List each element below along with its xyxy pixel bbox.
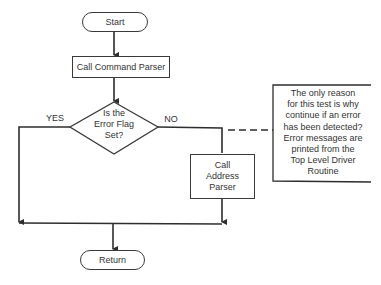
address-line-2: Address [206, 171, 239, 182]
note-line-5: Error messages are [274, 133, 372, 144]
return-terminal: Return [80, 250, 145, 270]
no-branch-line [158, 127, 222, 153]
note-line-1: The only reason [274, 88, 372, 99]
start-terminal: Start [82, 12, 148, 32]
merge-line [19, 223, 222, 224]
no-label: NO [160, 114, 182, 125]
note-line-6: printed from the [274, 144, 372, 155]
annotation-note: The only reason for this test is why con… [274, 88, 372, 178]
decision-line-2: Error Flag [84, 119, 144, 130]
decision-text: Is the Error Flag Set? [84, 108, 144, 141]
call-command-parser-box: Call Command Parser [72, 56, 170, 78]
note-line-2: for this test is why [274, 99, 372, 110]
note-line-4: has been detected? [274, 122, 372, 133]
yes-label: YES [40, 113, 70, 124]
decision-line-1: Is the [84, 108, 144, 119]
return-label: Return [99, 255, 126, 266]
call-address-parser-box: Call Address Parser [190, 154, 255, 199]
yes-branch-line [19, 127, 70, 222]
call-command-parser-label: Call Command Parser [77, 62, 166, 73]
note-line-7: Top Level Driver [274, 155, 372, 166]
address-line-1: Call [215, 160, 231, 171]
start-label: Start [105, 17, 124, 28]
note-line-3: continue if an error [274, 110, 372, 121]
decision-line-3: Set? [84, 130, 144, 141]
address-line-3: Parser [209, 182, 236, 193]
note-line-8: Routine [274, 166, 372, 177]
